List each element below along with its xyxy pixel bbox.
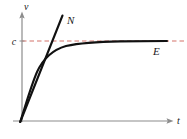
figure-canvas: v t c N E [0, 0, 187, 139]
velocity-time-figure: v t c N E [0, 0, 187, 139]
curve-n-path [20, 16, 62, 123]
c-tick-label: c [12, 36, 17, 47]
y-axis-group [19, 12, 24, 123]
y-axis-label: v [24, 1, 29, 12]
curve-e-path [20, 41, 167, 122]
x-axis-label: t [177, 115, 180, 126]
curve-label-n: N [66, 14, 75, 26]
x-axis-group [13, 118, 174, 123]
curve-label-e: E [152, 45, 160, 57]
